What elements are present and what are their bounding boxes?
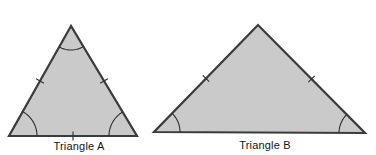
triangles-svg (0, 0, 376, 155)
triangle-b-shape (154, 25, 365, 133)
triangle-b (154, 25, 365, 133)
triangle-a-label: Triangle A (53, 140, 104, 152)
geometry-figure: Triangle A Triangle B (0, 0, 376, 155)
triangle-b-label: Triangle B (239, 139, 291, 151)
triangle-a-shape (9, 26, 137, 136)
triangle-a (9, 26, 137, 141)
